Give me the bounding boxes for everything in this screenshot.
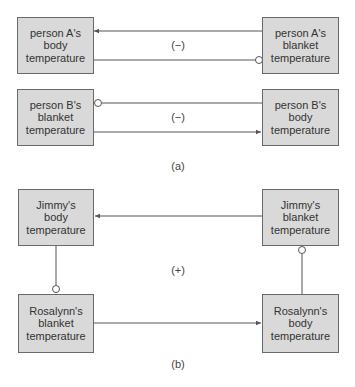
node-rosalynn-body-temperature: Rosalynn's body temperature xyxy=(262,294,339,353)
loop-polarity-b: (+) xyxy=(160,264,196,276)
caption-b: (b) xyxy=(160,358,196,370)
node-person-a-blanket-temperature: person A's blanket temperature xyxy=(262,17,339,74)
loop-polarity-a1: (−) xyxy=(160,39,196,51)
node-person-b-body-temperature: person B's body temperature xyxy=(262,89,339,146)
node-person-b-blanket-temperature: person B's blanket temperature xyxy=(17,89,94,146)
node-person-a-body-temperature: person A's body temperature xyxy=(17,17,94,74)
node-jimmy-body-temperature: Jimmy's body temperature xyxy=(18,189,94,246)
node-rosalynn-blanket-temperature: Rosalynn's blanket temperature xyxy=(18,294,94,353)
caption-a: (a) xyxy=(160,160,196,172)
loop-polarity-a2: (−) xyxy=(160,111,196,123)
node-jimmy-blanket-temperature: Jimmy's blanket temperature xyxy=(262,189,339,246)
